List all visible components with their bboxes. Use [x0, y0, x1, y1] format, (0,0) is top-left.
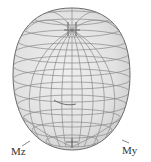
wireframe-surface-figure: Mz My	[0, 0, 151, 162]
my-axis-tick	[122, 140, 129, 143]
mz-axis-label: Mz	[11, 146, 26, 157]
wireframe-surface	[0, 0, 151, 162]
my-axis-label: My	[122, 145, 137, 156]
